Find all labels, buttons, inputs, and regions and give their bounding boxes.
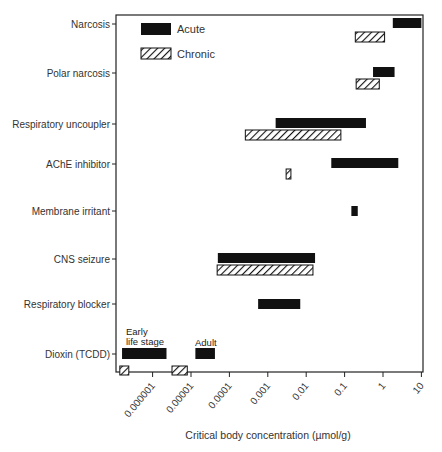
- acute-bar: [393, 18, 422, 28]
- chronic-bar: [355, 32, 384, 42]
- x-tick-label: 0.1: [332, 380, 350, 398]
- x-tick-label: 10: [410, 380, 426, 396]
- acute-bar: [351, 206, 357, 216]
- annotation-adult: Adult: [195, 337, 217, 348]
- acute-bar: [258, 299, 300, 309]
- acute-bar: [276, 118, 366, 128]
- chronic-bar: [245, 130, 341, 140]
- y-label: Dioxin (TCDD): [45, 349, 110, 360]
- x-tick-label: 0.000001: [122, 380, 158, 419]
- x-tick-label: 0.01: [290, 380, 311, 402]
- acute-bar: [373, 67, 395, 77]
- y-label: Polar narcosis: [47, 68, 110, 79]
- annotation-life-stage: life stage: [126, 336, 164, 347]
- y-label: Respiratory uncoupler: [12, 119, 110, 130]
- x-axis-label: Critical body concentration (µmol/g): [185, 429, 350, 441]
- legend-acute-label: Acute: [177, 23, 205, 35]
- x-tick-label: 0.001: [248, 380, 273, 407]
- y-axis-labels: NarcosisPolar narcosisRespiratory uncoup…: [12, 19, 116, 360]
- acute-bar: [218, 253, 315, 263]
- chronic-bar: [120, 366, 129, 375]
- x-tick-label: 0.00001: [164, 380, 196, 415]
- y-label: Membrane irritant: [32, 206, 111, 217]
- acute-bar: [122, 348, 166, 359]
- chronic-bar: [217, 265, 313, 275]
- chronic-bar: [356, 79, 379, 89]
- legend-chronic-label: Chronic: [177, 48, 215, 60]
- legend-acute-swatch: [141, 23, 171, 35]
- chronic-bar: [172, 366, 187, 375]
- y-label: CNS seizure: [54, 254, 111, 265]
- x-axis-ticks: 0.0000010.000010.00010.0010.010.1110: [122, 372, 426, 419]
- y-label: AChE inhibitor: [46, 159, 111, 170]
- y-label: Respiratory blocker: [24, 299, 111, 310]
- acute-bar: [195, 348, 215, 359]
- chronic-bar: [286, 169, 291, 179]
- acute-bar: [331, 158, 398, 168]
- chart: NarcosisPolar narcosisRespiratory uncoup…: [0, 0, 442, 452]
- y-label: Narcosis: [71, 19, 110, 30]
- x-tick-label: 0.0001: [206, 380, 234, 411]
- x-tick-label: 1: [376, 380, 388, 392]
- legend-chronic-swatch: [141, 48, 171, 59]
